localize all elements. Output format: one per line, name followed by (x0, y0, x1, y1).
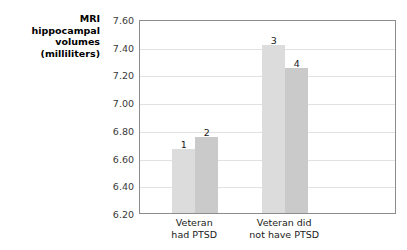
y-axis-tick-label: 7.60 (100, 15, 134, 26)
x-axis-category-label-line: Veteran did (257, 217, 312, 228)
x-axis-category-label-line: not have PTSD (249, 229, 319, 240)
y-axis-tick-label: 6.60 (100, 153, 134, 164)
bar (195, 137, 218, 213)
plot-area: 1234 Veterans exposed to combat Twins un… (139, 20, 396, 214)
bar-chart: MRI hippocampal volumes (milliliters) 7.… (0, 0, 407, 250)
x-axis-category-label-line: Veteran (176, 217, 213, 228)
y-axis-tick-label: 6.20 (100, 209, 134, 220)
bar-value-label: 4 (294, 58, 300, 69)
bar-value-label: 3 (271, 35, 277, 46)
y-axis-tick-label: 6.80 (100, 125, 134, 136)
x-axis-category-label-line: had PTSD (171, 229, 217, 240)
y-axis-tick-labels: 7.607.407.207.006.806.606.406.20 (100, 0, 134, 250)
y-axis-tick-label: 7.20 (100, 70, 134, 81)
y-axis-tick-label: 7.00 (100, 98, 134, 109)
bar (285, 68, 308, 214)
bar-value-label: 1 (181, 139, 187, 150)
x-axis-category-label: Veteranhad PTSD (171, 217, 217, 241)
x-axis-category-labels: Veteranhad PTSDVeteran didnot have PTSD (139, 217, 396, 247)
y-axis-title-line-4: (milliliters) (6, 48, 100, 60)
y-axis-title-line-2: hippocampal (6, 25, 100, 37)
y-axis-title-line-1: MRI (6, 13, 100, 25)
bar (172, 149, 195, 213)
bar (262, 45, 285, 213)
bar-value-label: 2 (204, 127, 210, 138)
bars-layer: 1234 (140, 21, 395, 213)
y-axis-title-line-3: volumes (6, 36, 100, 48)
y-axis-tick-label: 6.40 (100, 181, 134, 192)
y-axis-title: MRI hippocampal volumes (milliliters) (6, 13, 100, 59)
x-axis-category-label: Veteran didnot have PTSD (249, 217, 319, 241)
y-axis-tick-label: 7.40 (100, 42, 134, 53)
